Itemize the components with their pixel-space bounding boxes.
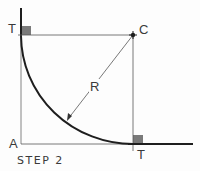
fillet-construction-diagram: T C R A T STEP 2: [0, 0, 200, 171]
fillet-arc: [21, 36, 133, 144]
step-caption: STEP 2: [17, 155, 64, 166]
right-angle-marker-bottom: [133, 135, 143, 144]
diagram-canvas: [0, 0, 200, 171]
right-angle-marker-top: [21, 26, 31, 35]
center-point-label: C: [139, 23, 148, 36]
radius-label: R: [90, 80, 99, 93]
tangent-point-bottom-label: T: [137, 148, 145, 161]
radius-line: [68, 35, 133, 119]
corner-point-label: A: [9, 137, 18, 150]
tangent-point-top-label: T: [8, 22, 16, 35]
